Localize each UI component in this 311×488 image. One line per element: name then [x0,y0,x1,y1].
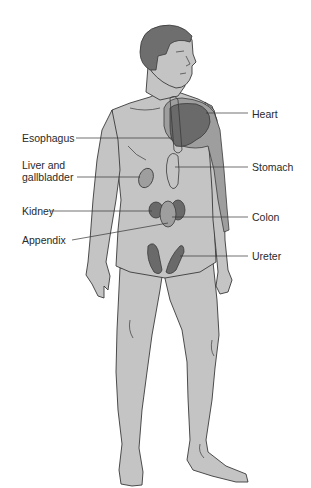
anatomy-figure: Heart Esophagus Stomach Liver and gallbl… [0,0,311,488]
label-kidney: Kidney [22,205,54,217]
label-stomach: Stomach [252,161,293,173]
label-ureter: Ureter [252,250,281,262]
right-leg [163,262,248,482]
label-liver-line1: Liver and [22,159,65,171]
label-colon: Colon [252,211,279,223]
left-leg [116,268,163,486]
label-esophagus: Esophagus [22,132,75,144]
label-appendix: Appendix [22,234,66,246]
label-heart: Heart [252,108,278,120]
label-liver-line2: gallbladder [22,171,73,183]
